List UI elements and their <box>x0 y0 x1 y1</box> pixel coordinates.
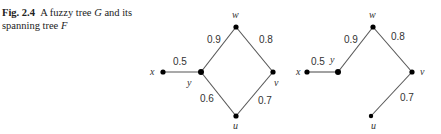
node-label: x <box>149 66 155 77</box>
edge-weight-label: 0.8 <box>391 31 405 42</box>
edge-weight-label: 0.5 <box>311 56 325 67</box>
graph-g: 0.50.90.80.60.7xywvu <box>149 9 279 131</box>
edge-weight-label: 0.9 <box>344 34 358 45</box>
node-v <box>270 69 275 74</box>
node-label: v <box>420 66 425 77</box>
node-y <box>198 69 204 75</box>
node-v <box>409 69 414 74</box>
node-x <box>160 69 165 74</box>
node-u <box>369 114 373 118</box>
node-w <box>233 24 238 29</box>
node-label: u <box>233 120 238 131</box>
node-y <box>335 69 341 75</box>
node-label: y <box>186 77 192 88</box>
node-x <box>304 69 309 74</box>
edge-weight-label: 0.9 <box>207 34 221 45</box>
node-label: w <box>369 9 376 20</box>
edge-weight-label: 0.6 <box>200 93 214 104</box>
node-label: u <box>371 120 376 131</box>
edge-weight-label: 0.8 <box>259 34 273 45</box>
node-label: w <box>232 9 239 20</box>
node-w <box>370 24 375 29</box>
graph-f: 0.50.90.80.7xywvu <box>295 9 425 131</box>
node-u <box>233 113 238 118</box>
edge-u-v <box>236 72 273 116</box>
graph-diagram: 0.50.90.80.60.7xywvu0.50.90.80.7xywvu <box>0 0 441 134</box>
edge-weight-label: 0.7 <box>258 95 272 106</box>
edge-weight-label: 0.5 <box>173 56 187 67</box>
node-label: x <box>295 66 301 77</box>
node-label: v <box>274 77 279 88</box>
edge-weight-label: 0.7 <box>400 92 414 103</box>
node-label: y <box>329 54 335 65</box>
